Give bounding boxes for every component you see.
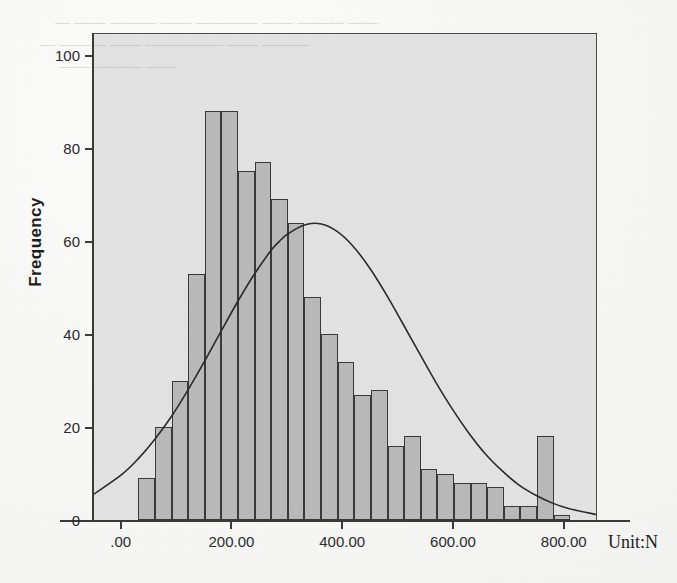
- histogram-figure: 020406080100 .00200.00400.00600.00800.00…: [0, 0, 677, 583]
- y-axis-tick-mark: [85, 148, 93, 150]
- x-axis-unit-label: Unit:N: [608, 532, 658, 553]
- normal-distribution-curve: [94, 34, 596, 520]
- y-axis-tick-label: 100: [42, 48, 80, 63]
- y-axis-title: Frequency: [26, 182, 46, 302]
- x-axis-tick-mark: [563, 521, 565, 529]
- y-axis-tick-label: 0: [42, 513, 80, 528]
- x-axis-tick-mark: [452, 521, 454, 529]
- x-axis-tick-label: .00: [110, 533, 131, 550]
- x-axis-tick-label: 200.00: [209, 533, 255, 550]
- y-axis-tick-label: 20: [42, 420, 80, 435]
- y-axis-tick-mark: [85, 55, 93, 57]
- y-axis-tick-mark: [85, 520, 93, 522]
- x-axis-tick-label: 400.00: [319, 533, 365, 550]
- y-axis-line: [92, 33, 94, 522]
- y-axis-tick-mark: [85, 427, 93, 429]
- y-axis-tick-label: 60: [42, 234, 80, 249]
- normal-curve-path: [94, 223, 596, 514]
- x-axis-tick-mark: [230, 521, 232, 529]
- x-axis-tick-mark: [120, 521, 122, 529]
- y-axis-tick-label: 80: [42, 141, 80, 156]
- x-axis-line: [60, 520, 630, 522]
- plot-area: [93, 33, 597, 521]
- x-axis-tick-label: 600.00: [430, 533, 476, 550]
- y-axis-tick-mark: [85, 241, 93, 243]
- y-axis-tick-mark: [85, 334, 93, 336]
- y-axis-tick-label: 40: [42, 327, 80, 342]
- x-axis-tick-mark: [341, 521, 343, 529]
- x-axis-tick-label: 800.00: [541, 533, 587, 550]
